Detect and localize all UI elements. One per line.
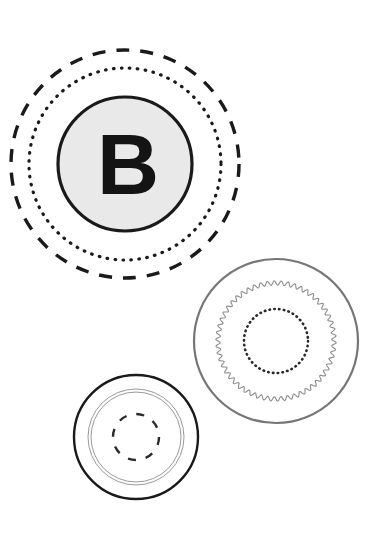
stamp-b-letter: B — [97, 116, 159, 212]
background-rect — [0, 0, 390, 544]
circles-figure: B — [0, 0, 390, 544]
canvas-root: B B — [0, 0, 390, 544]
